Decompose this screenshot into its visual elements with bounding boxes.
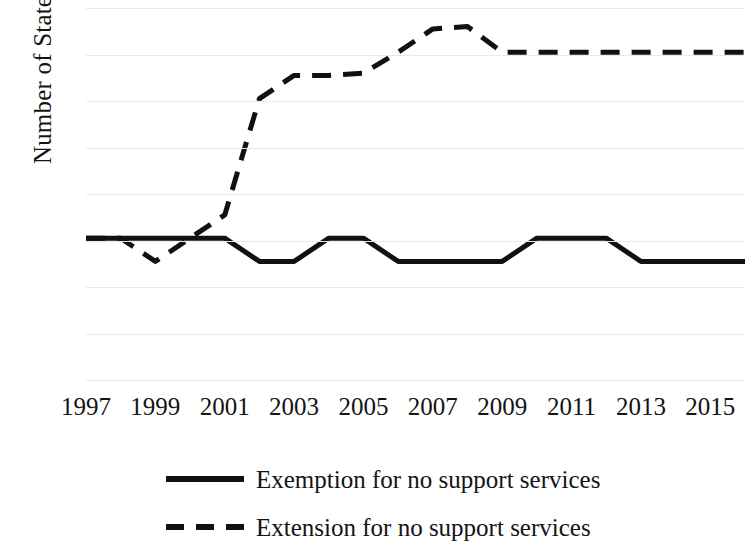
gridline: [86, 241, 745, 242]
gridline: [86, 8, 745, 9]
chart-legend: Exemption for no support servicesExtensi…: [0, 455, 745, 551]
gridline: [86, 380, 745, 381]
legend-label: Extension for no support services: [256, 515, 591, 540]
x-axis-tick-label: 2013: [604, 392, 678, 422]
x-axis-tick-label: 2011: [535, 392, 609, 422]
legend-item: Exemption for no support services: [0, 455, 745, 503]
gridline: [86, 194, 745, 195]
gridlines: [86, 8, 745, 380]
x-axis-tick-label: 2015: [673, 392, 745, 422]
x-axis-tick-label: 1997: [49, 392, 123, 422]
plot-area: [86, 8, 745, 380]
x-axis-tick-label: 1999: [118, 392, 192, 422]
legend-item: Extension for no support services: [0, 503, 745, 551]
x-axis-tick-label: 2009: [465, 392, 539, 422]
chart-figure: Number of States 1614121086420 199719992…: [0, 0, 745, 558]
legend-line-swatch: [166, 524, 244, 530]
x-axis-tick-labels: 1997199920012003200520072009201120132015: [86, 392, 745, 426]
x-axis-tick-label: 2003: [257, 392, 331, 422]
x-axis-tick-label: 2007: [396, 392, 470, 422]
gridline: [86, 148, 745, 149]
legend-line-swatch: [166, 476, 244, 482]
gridline: [86, 334, 745, 335]
gridline: [86, 55, 745, 56]
y-axis-title: Number of States: [29, 0, 59, 215]
legend-label: Exemption for no support services: [256, 467, 600, 492]
gridline: [86, 101, 745, 102]
x-axis-tick-label: 2001: [188, 392, 262, 422]
gridline: [86, 287, 745, 288]
x-axis-tick-label: 2005: [326, 392, 400, 422]
